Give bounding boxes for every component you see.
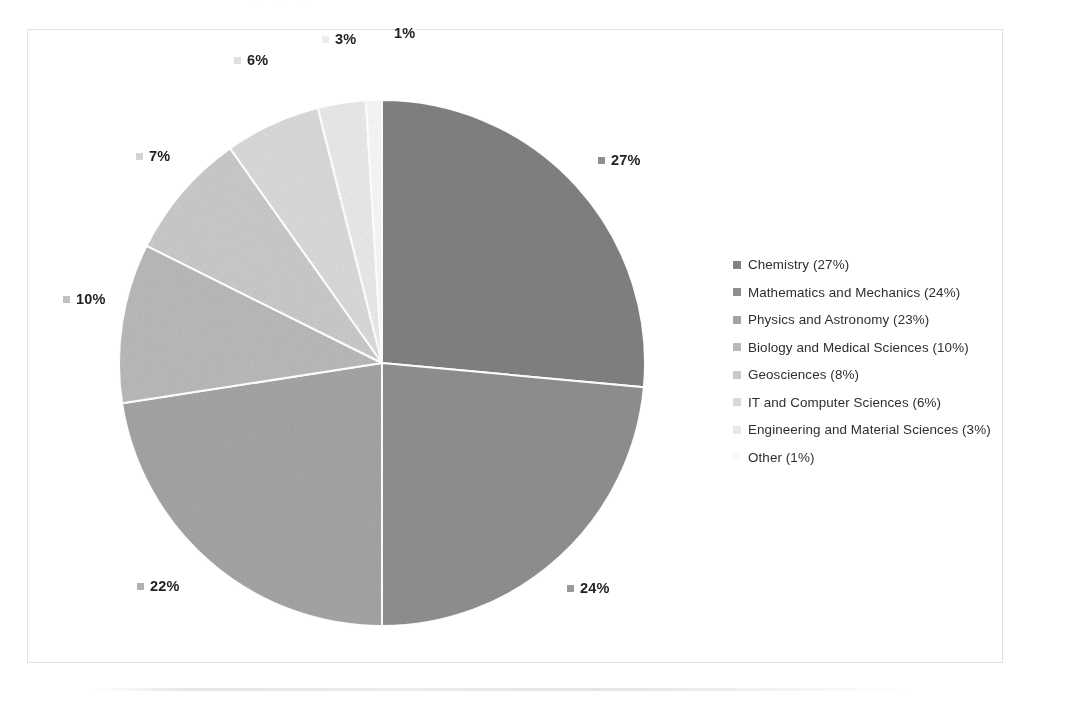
legend-swatch-icon — [733, 453, 741, 461]
slice-label-text-chemistry: 27% — [611, 152, 641, 168]
legend-item[interactable]: IT and Computer Sciences (6%) — [733, 389, 1033, 417]
slice-label-swatch-chemistry — [598, 157, 605, 164]
legend-swatch-icon — [733, 343, 741, 351]
slice-label-text-it: 6% — [247, 52, 268, 68]
slice-label-swatch-mathematics — [567, 585, 574, 592]
legend-item-label: Biology and Medical Sciences (10%) — [748, 340, 969, 355]
legend-item-label: Chemistry (27%) — [748, 257, 849, 272]
slice-label-engineering: 3% — [322, 31, 356, 47]
slice-label-swatch-geosciences — [136, 153, 143, 160]
scan-bleed-line-bottom — [92, 688, 912, 691]
slice-label-other: 1% — [381, 25, 415, 41]
legend-item[interactable]: Physics and Astronomy (23%) — [733, 306, 1033, 334]
legend-swatch-icon — [733, 371, 741, 379]
legend-item-label: Physics and Astronomy (23%) — [748, 312, 929, 327]
legend-item[interactable]: Chemistry (27%) — [733, 251, 1033, 279]
chart-legend: Chemistry (27%)Mathematics and Mechanics… — [733, 251, 1033, 471]
legend-item-label: Engineering and Material Sciences (3%) — [748, 422, 991, 437]
slice-label-swatch-other — [381, 30, 388, 37]
legend-item-label: Other (1%) — [748, 450, 814, 465]
slice-label-swatch-engineering — [322, 36, 329, 43]
legend-item[interactable]: Geosciences (8%) — [733, 361, 1033, 389]
legend-item-label: Mathematics and Mechanics (24%) — [748, 285, 960, 300]
legend-item[interactable]: Mathematics and Mechanics (24%) — [733, 279, 1033, 307]
slice-label-mathematics: 24% — [567, 580, 610, 596]
legend-swatch-icon — [733, 426, 741, 434]
slice-label-biology: 10% — [63, 291, 106, 307]
slice-label-text-physics: 22% — [150, 578, 180, 594]
scan-bleed-text-top: · · · · · · — [250, 1, 810, 10]
slice-label-physics: 22% — [137, 578, 180, 594]
slice-label-it: 6% — [234, 52, 268, 68]
legend-item[interactable]: Engineering and Material Sciences (3%) — [733, 416, 1033, 444]
legend-item[interactable]: Biology and Medical Sciences (10%) — [733, 334, 1033, 362]
slice-label-swatch-biology — [63, 296, 70, 303]
slice-label-text-mathematics: 24% — [580, 580, 610, 596]
slice-label-chemistry: 27% — [598, 152, 641, 168]
legend-swatch-icon — [733, 398, 741, 406]
slice-label-swatch-it — [234, 57, 241, 64]
legend-item[interactable]: Other (1%) — [733, 444, 1033, 472]
slice-label-swatch-physics — [137, 583, 144, 590]
legend-item-label: IT and Computer Sciences (6%) — [748, 395, 941, 410]
legend-item-label: Geosciences (8%) — [748, 367, 859, 382]
legend-swatch-icon — [733, 288, 741, 296]
slice-label-text-engineering: 3% — [335, 31, 356, 47]
slice-label-text-biology: 10% — [76, 291, 106, 307]
legend-swatch-icon — [733, 261, 741, 269]
slice-label-text-other: 1% — [394, 25, 415, 41]
slice-label-geosciences: 7% — [136, 148, 170, 164]
legend-swatch-icon — [733, 316, 741, 324]
slice-label-text-geosciences: 7% — [149, 148, 170, 164]
